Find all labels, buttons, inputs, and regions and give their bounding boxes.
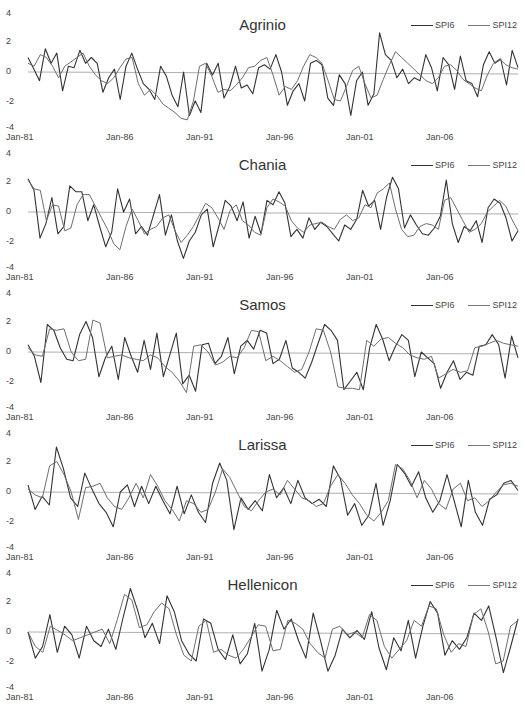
zero-baseline bbox=[28, 352, 518, 354]
chart-panel-chania: 420-2-4Jan-81Jan-86Jan-91Jan-96Jan-01Jan… bbox=[0, 140, 525, 280]
series-line-spi12 bbox=[28, 320, 518, 393]
series-line-spi6 bbox=[28, 447, 518, 530]
chart-panel-hellenicon: 420-2-4Jan-81Jan-86Jan-91Jan-96Jan-01Jan… bbox=[0, 560, 525, 700]
zero-baseline bbox=[28, 492, 518, 494]
line-plot-area bbox=[0, 560, 525, 700]
line-plot-area bbox=[0, 140, 525, 280]
series-line-spi6 bbox=[28, 589, 518, 673]
line-plot-area bbox=[0, 280, 525, 420]
line-plot-area bbox=[0, 420, 525, 560]
series-line-spi12 bbox=[28, 462, 518, 522]
chart-panel-agrinio: 420-2-4Jan-81Jan-86Jan-91Jan-96Jan-01Jan… bbox=[0, 0, 525, 140]
zero-baseline bbox=[28, 212, 518, 214]
line-plot-area bbox=[0, 0, 525, 140]
chart-panel-larissa: 420-2-4Jan-81Jan-86Jan-91Jan-96Jan-01Jan… bbox=[0, 420, 525, 560]
chart-panel-samos: 420-2-4Jan-81Jan-86Jan-91Jan-96Jan-01Jan… bbox=[0, 280, 525, 420]
